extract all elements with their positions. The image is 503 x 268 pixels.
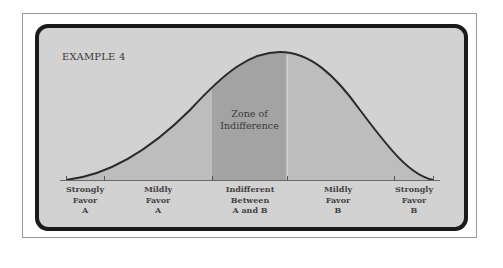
label-line: A and B [215,205,285,216]
label-strongly-favor-a: Strongly Favor A [50,184,120,216]
label-line: A [123,205,193,216]
label-indifferent: Indifferent Between A and B [215,184,285,216]
label-line: Mildly [303,184,373,195]
example-title: EXAMPLE 4 [62,51,126,62]
label-mildly-favor-b: Mildly Favor B [303,184,373,216]
label-line: B [379,205,449,216]
label-line: Favor [379,195,449,206]
label-strongly-favor-b: Strongly Favor B [379,184,449,216]
zone-label-line1: Zone of [212,108,287,120]
label-line: Between [215,195,285,206]
label-line: Favor [50,195,120,206]
label-line: A [50,205,120,216]
zone-of-indifference-label: Zone of Indifference [212,108,287,132]
label-line: Favor [303,195,373,206]
label-line: Mildly [123,184,193,195]
label-line: Strongly [50,184,120,195]
zone-label-line2: Indifference [212,120,287,132]
label-line: Strongly [379,184,449,195]
label-line: B [303,205,373,216]
label-mildly-favor-a: Mildly Favor A [123,184,193,216]
label-line: Favor [123,195,193,206]
bell-curve-diagram [0,0,503,268]
label-line: Indifferent [215,184,285,195]
